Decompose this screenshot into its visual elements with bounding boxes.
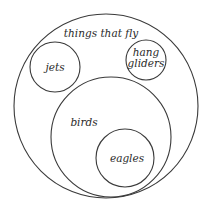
eagles-label: eagles <box>110 152 145 164</box>
birds-circle <box>51 77 171 197</box>
set-things-that-fly: things that fly <box>14 14 198 198</box>
things-that-fly-circle <box>14 14 198 198</box>
set-birds: birds <box>51 77 171 197</box>
hang-gliders-label-line2: gliders <box>128 57 165 69</box>
set-eagles: eagles <box>96 129 154 187</box>
euler-diagram: things that fly jets hang gliders birds … <box>0 0 203 207</box>
birds-label: birds <box>70 116 98 128</box>
set-hang-gliders: hang gliders <box>126 40 166 80</box>
jets-label: jets <box>43 61 65 73</box>
things-that-fly-label: things that fly <box>64 27 139 39</box>
set-jets: jets <box>30 42 80 92</box>
